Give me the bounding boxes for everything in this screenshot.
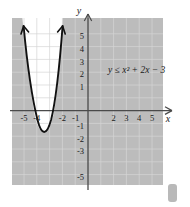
y-axis-label: y	[76, 5, 82, 16]
x-tick-label: -4	[33, 113, 41, 123]
inequality-label: y ≤ x² + 2x − 3	[107, 65, 166, 75]
y-tick-label: 5	[80, 31, 84, 41]
x-tick-label: -2	[59, 113, 66, 123]
x-tick-label: 2	[111, 113, 115, 123]
y-tick-label: 2	[80, 69, 84, 79]
x-tick-label: 3	[124, 113, 128, 123]
corner-page-mark	[168, 184, 177, 202]
y-tick-label: -1	[77, 121, 84, 131]
y-tick-label: 3	[80, 57, 84, 67]
x-axis-label: x	[165, 113, 171, 124]
y-tick-label: -5	[77, 172, 84, 182]
y-tick-label: -2	[77, 134, 84, 144]
x-tick-label: -5	[20, 113, 27, 123]
y-tick-label: -3	[77, 146, 84, 156]
graph-figure: -5 -4 -2 -1 2 3 4 5 5 4 3 2 1 -1 -2 -3 -…	[0, 0, 190, 207]
y-tick-label: 1	[80, 82, 84, 92]
x-tick-label: 5	[150, 113, 154, 123]
x-tick-label: 4	[137, 113, 142, 123]
coordinate-plane-svg: -5 -4 -2 -1 2 3 4 5 5 4 3 2 1 -1 -2 -3 -…	[0, 0, 190, 207]
